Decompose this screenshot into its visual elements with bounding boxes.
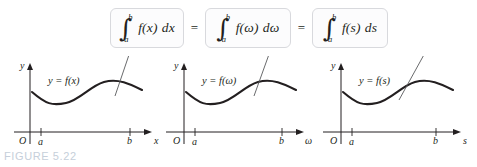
integrand-x: f(x) [138, 21, 158, 35]
leader-line-to-callout [115, 56, 132, 96]
x-axis-arrowhead-icon [453, 129, 461, 135]
integral-expression-omega: ∫ b a f(ω) dω [217, 16, 280, 40]
y-axis-label: y [173, 60, 179, 71]
integral-lower-limit: a [124, 35, 128, 44]
tick-b-label: b [127, 135, 132, 146]
integral-upper-limit: b [332, 13, 336, 22]
tick-a-label: a [349, 136, 354, 147]
curve-label: y = f(ω) [201, 75, 237, 87]
graph-svg-omega: y ω O a b y = f(ω) [160, 56, 317, 148]
graph-svg-x: y x O a b y = f(x) [8, 56, 160, 148]
x-axis-label: ω [305, 135, 312, 146]
tick-a-label: a [192, 136, 197, 147]
integral-callout-box-omega: ∫ b a f(ω) dω [205, 8, 291, 48]
integral-upper-limit: b [226, 13, 230, 22]
equals-sign-2: = [291, 20, 312, 36]
figure-5-22: ∫ b a f(x) dx = ∫ b a f(ω) dω = [0, 0, 477, 167]
y-axis-arrowhead-icon [338, 63, 344, 70]
differential-dx: dx [162, 21, 175, 35]
integral-upper-limit: b [128, 13, 132, 22]
integral-equation-row: ∫ b a f(x) dx = ∫ b a f(ω) dω = [110, 6, 390, 50]
curve-label: y = f(s) [358, 75, 390, 87]
y-axis-arrowhead-icon [181, 63, 187, 70]
tick-a-label: a [38, 136, 43, 147]
graph-svg-s: y s O a b y = f(s) [317, 56, 475, 148]
integral-lower-limit: a [222, 35, 226, 44]
leader-line-to-callout [254, 56, 272, 96]
curve-label: y = f(x) [47, 75, 80, 87]
integral-expression-s: ∫ b a f(s) ds [323, 16, 377, 40]
origin-label: O [19, 135, 26, 146]
integrand-s: f(s) [342, 21, 361, 35]
x-axis-arrowhead-icon [144, 129, 152, 135]
graph-panel-omega: y ω O a b y = f(ω) [160, 56, 317, 148]
graph-panel-s: y s O a b y = f(s) [317, 56, 475, 148]
tick-b-label: b [279, 135, 284, 146]
integral-expression-x: ∫ b a f(x) dx [119, 16, 175, 40]
x-axis-label: x [153, 135, 159, 146]
integrand-omega: f(ω) [236, 21, 259, 35]
tick-b-label: b [433, 135, 438, 146]
origin-label: O [330, 135, 337, 146]
equals-sign-1: = [184, 20, 205, 36]
integral-callout-box-s: ∫ b a f(s) ds [312, 8, 388, 48]
y-axis-label: y [330, 60, 336, 71]
leader-line-to-callout [399, 56, 431, 100]
y-axis-arrowhead-icon [27, 63, 33, 70]
differential-domega: dω [263, 21, 280, 35]
integral-lower-limit: a [328, 35, 332, 44]
figure-caption: FIGURE 5.22 [4, 150, 77, 162]
x-axis-arrowhead-icon [296, 129, 304, 135]
graph-panel-x: y x O a b y = f(x) [8, 56, 160, 148]
y-axis-label: y [19, 60, 25, 71]
origin-label: O [173, 135, 180, 146]
x-axis-label: s [463, 135, 467, 146]
integral-callout-box-x: ∫ b a f(x) dx [110, 8, 184, 48]
differential-ds: ds [365, 21, 377, 35]
